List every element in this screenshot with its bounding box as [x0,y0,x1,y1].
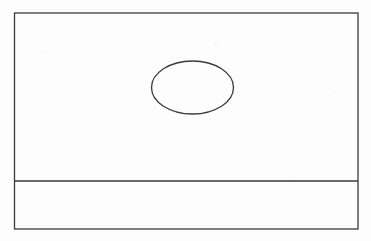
lower-strip-region [15,181,359,229]
line-diagram-svg [0,0,371,241]
ellipse-shape [152,61,234,114]
upper-compartment-region [15,13,359,181]
outer-rectangle [15,13,359,229]
figure-canvas [0,0,371,241]
